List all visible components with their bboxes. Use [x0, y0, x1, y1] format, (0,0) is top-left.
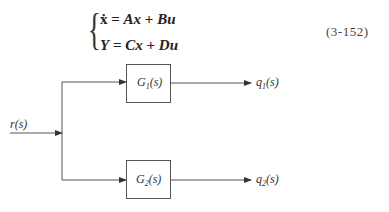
block-g1-label: G1(s) — [137, 75, 162, 91]
input-label-text: r(s) — [10, 117, 27, 131]
block-g2-label: G2(s) — [136, 172, 161, 188]
g1-arg: (s) — [150, 75, 163, 89]
g2-name: G — [136, 172, 145, 186]
output-label-2: q2(s) — [256, 172, 279, 188]
input-label: r(s) — [10, 117, 27, 132]
g2-arg: (s) — [149, 172, 162, 186]
block-diagram — [0, 0, 389, 212]
g1-name: G — [137, 75, 146, 89]
q1-arg: (s) — [266, 75, 279, 89]
output-label-1: q1(s) — [256, 75, 279, 91]
q2-arg: (s) — [266, 172, 279, 186]
